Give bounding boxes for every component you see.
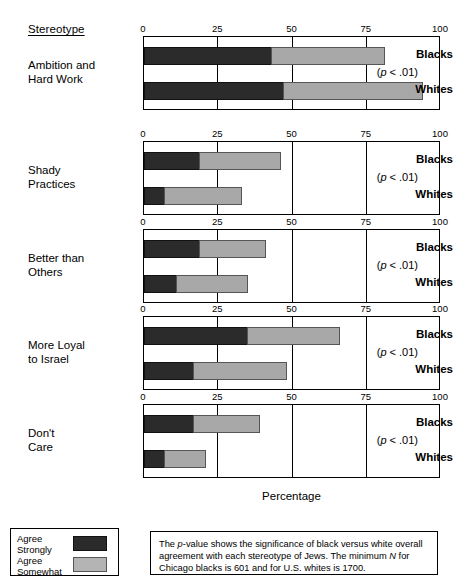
bar-segment-agree-somewhat xyxy=(164,450,207,468)
legend-label-line1: Agree xyxy=(17,534,52,545)
category-label-line: to Israel xyxy=(28,353,138,367)
stereotype-category-label: Don'tCare xyxy=(28,427,138,454)
bar-segment-agree-somewhat xyxy=(176,275,248,293)
category-label-line: Others xyxy=(28,266,138,280)
legend-swatch-agree-strongly xyxy=(73,536,107,551)
legend-swatch-agree-somewhat xyxy=(73,557,107,572)
x-axis-tick-label: 25 xyxy=(212,23,223,34)
p-value-annotation: (p < .01) xyxy=(377,434,418,446)
bar-segment-agree-strongly xyxy=(144,362,194,380)
p-value-annotation: (p < .01) xyxy=(377,171,418,183)
x-axis-tick-label: 75 xyxy=(360,303,371,314)
legend-label-agree-strongly: Agree Strongly xyxy=(17,534,52,555)
category-label-line: Practices xyxy=(28,178,138,192)
bar-segment-agree-strongly xyxy=(144,415,194,433)
x-axis-tick-label: 50 xyxy=(286,303,297,314)
legend-label-agree-somewhat: Agree Somewhat xyxy=(17,556,62,577)
bar-segment-agree-somewhat xyxy=(193,362,286,380)
category-label-line: Ambition and xyxy=(28,59,138,73)
p-value-annotation: (p < .01) xyxy=(377,259,418,271)
bar-group-label-blacks: Blacks xyxy=(321,241,459,253)
chart-panel: 0255075100BlacksWhitesAmbition andHard W… xyxy=(0,23,459,113)
x-axis-tick-label: 50 xyxy=(286,391,297,402)
x-axis-tick-label: 0 xyxy=(140,391,145,402)
category-label-line: Better than xyxy=(28,252,138,266)
bar-segment-agree-somewhat xyxy=(199,152,280,170)
p-value-annotation: (p < .01) xyxy=(377,346,418,358)
x-axis-tick-label: 25 xyxy=(212,128,223,139)
category-label-line: More Loyal xyxy=(28,339,138,353)
x-axis-tick-label: 100 xyxy=(432,216,448,227)
legend-label-line2: Strongly xyxy=(17,545,52,556)
x-axis-tick-label: 25 xyxy=(212,216,223,227)
x-axis: 0255075100 xyxy=(143,303,440,316)
category-label-line: Shady xyxy=(28,164,138,178)
bar-segment-agree-strongly xyxy=(144,327,248,345)
footnote-italic-n: N xyxy=(389,551,396,561)
chart-panel: 0255075100BlacksWhitesBetter thanOthers(… xyxy=(0,216,459,306)
bar-segment-agree-somewhat xyxy=(199,240,265,258)
x-axis-tick-label: 100 xyxy=(432,23,448,34)
x-axis-tick-label: 50 xyxy=(286,216,297,227)
stereotype-category-label: Better thanOthers xyxy=(28,252,138,279)
legend-label-line2: Somewhat xyxy=(17,567,62,578)
bar-group-label-whites: Whites xyxy=(321,451,459,463)
category-label-line: Care xyxy=(28,441,138,455)
bar-segment-agree-strongly xyxy=(144,47,272,65)
x-axis-tick-label: 100 xyxy=(432,128,448,139)
x-axis: 0255075100 xyxy=(143,128,440,141)
x-axis-tick-label: 25 xyxy=(212,391,223,402)
p-value-annotation: (p < .01) xyxy=(377,66,418,78)
legend: Agree Strongly Agree Somewhat xyxy=(10,528,119,576)
x-axis-tick-label: 75 xyxy=(360,23,371,34)
x-axis-tick-label: 0 xyxy=(140,23,145,34)
bar-segment-agree-strongly xyxy=(144,240,200,258)
bar-group-label-blacks: Blacks xyxy=(321,153,459,165)
category-label-line: Hard Work xyxy=(28,73,138,87)
chart-panel: 0255075100BlacksWhitesShadyPractices(p <… xyxy=(0,128,459,218)
x-axis-tick-label: 50 xyxy=(286,128,297,139)
x-axis-tick-label: 0 xyxy=(140,303,145,314)
bar-segment-agree-strongly xyxy=(144,275,177,293)
footnote: The p-value shows the significance of bl… xyxy=(150,531,438,575)
stereotype-category-label: More Loyalto Israel xyxy=(28,339,138,366)
x-axis-tick-label: 50 xyxy=(286,23,297,34)
bar-segment-agree-strongly xyxy=(144,82,284,100)
bar-group-label-whites: Whites xyxy=(321,188,459,200)
bar-segment-agree-strongly xyxy=(144,187,165,205)
stereotype-category-label: ShadyPractices xyxy=(28,164,138,191)
bar-segment-agree-strongly xyxy=(144,152,200,170)
bar-segment-agree-somewhat xyxy=(164,187,242,205)
footnote-part-2: -value shows the significance of black v… xyxy=(159,539,423,561)
x-axis-tick-label: 75 xyxy=(360,216,371,227)
x-axis-title: Percentage xyxy=(143,490,440,502)
bar-group-label-whites: Whites xyxy=(321,83,459,95)
bar-group-label-blacks: Blacks xyxy=(321,416,459,428)
chart-panel: 0255075100BlacksWhitesDon'tCare(p < .01) xyxy=(0,391,459,481)
bar-group-label-blacks: Blacks xyxy=(321,328,459,340)
x-axis: 0255075100 xyxy=(143,391,440,404)
bar-group-label-blacks: Blacks xyxy=(321,48,459,60)
bar-segment-agree-somewhat xyxy=(193,415,259,433)
x-axis-tick-label: 75 xyxy=(360,128,371,139)
x-axis: 0255075100 xyxy=(143,23,440,36)
bar-group-label-whites: Whites xyxy=(321,276,459,288)
stereotype-category-label: Ambition andHard Work xyxy=(28,59,138,86)
legend-label-line1: Agree xyxy=(17,556,62,567)
category-label-line: Don't xyxy=(28,427,138,441)
x-axis-tick-label: 0 xyxy=(140,128,145,139)
x-axis-tick-label: 0 xyxy=(140,216,145,227)
bar-segment-agree-strongly xyxy=(144,450,165,468)
footnote-part-1: The xyxy=(159,539,178,549)
stereotype-bar-chart: Stereotype 0255075100BlacksWhitesAmbitio… xyxy=(0,0,459,588)
chart-panel: 0255075100BlacksWhitesMore Loyalto Israe… xyxy=(0,303,459,393)
bar-group-label-whites: Whites xyxy=(321,363,459,375)
x-axis-tick-label: 100 xyxy=(432,303,448,314)
x-axis: 0255075100 xyxy=(143,216,440,229)
x-axis-tick-label: 25 xyxy=(212,303,223,314)
x-axis-tick-label: 100 xyxy=(432,391,448,402)
x-axis-tick-label: 75 xyxy=(360,391,371,402)
